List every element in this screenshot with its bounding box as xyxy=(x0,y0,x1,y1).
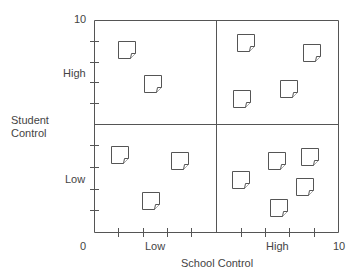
x-axis-title: School Control xyxy=(181,257,253,269)
quadrant-low-student-low-school xyxy=(112,147,189,210)
quadrant-low-student-high-school xyxy=(233,149,319,217)
sticky-note-icon xyxy=(143,193,160,210)
sticky-note-icon xyxy=(172,153,189,170)
sticky-note-icon xyxy=(112,147,129,164)
y-axis-high-label: High xyxy=(63,67,86,79)
sticky-note-icon xyxy=(234,91,251,108)
sticky-note-icon xyxy=(119,42,136,59)
sticky-note-icon xyxy=(304,45,321,62)
sticky-note-icon xyxy=(238,35,255,52)
sticky-note-icon xyxy=(233,172,250,189)
quadrant-high-student-low-school xyxy=(119,42,162,93)
quadrant-diagram xyxy=(0,0,361,279)
sticky-note-icon xyxy=(281,81,298,98)
sticky-note-icon xyxy=(297,179,314,196)
sticky-note-icon xyxy=(145,76,162,93)
y-axis-title-line1: Student xyxy=(11,114,49,126)
x-axis-high-label: High xyxy=(266,240,289,252)
sticky-note-icon xyxy=(271,200,288,217)
sticky-note-icon xyxy=(302,149,319,166)
x-axis-min-label: 0 xyxy=(80,240,86,252)
y-axis-max-label: 10 xyxy=(74,13,86,25)
y-axis-title-line2: Control xyxy=(11,127,46,139)
y-axis-low-label: Low xyxy=(65,173,85,185)
x-axis-max-label: 10 xyxy=(333,240,345,252)
quadrant-high-student-high-school xyxy=(234,35,321,108)
sticky-note-icon xyxy=(269,153,286,170)
x-axis-low-label: Low xyxy=(145,240,165,252)
